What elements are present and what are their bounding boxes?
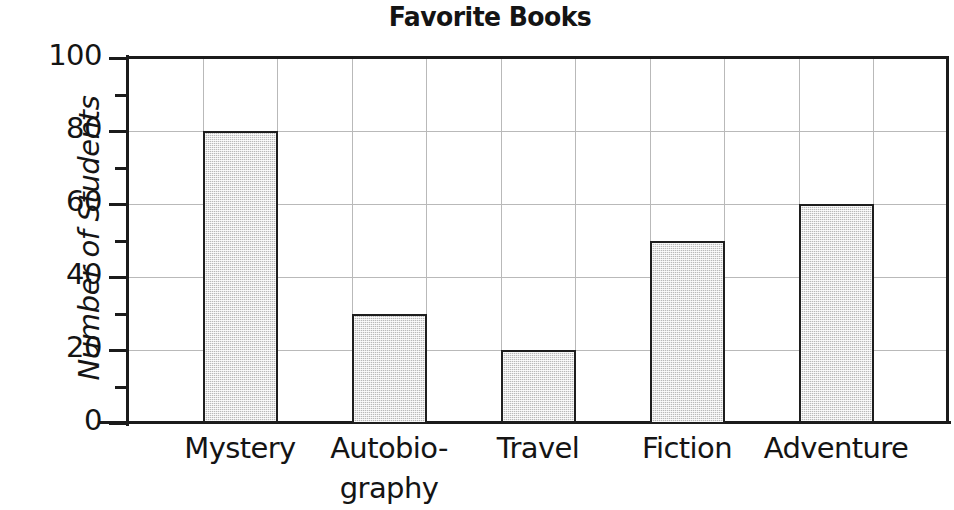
y-tick-minor [115, 167, 128, 170]
y-tick-label: 20 [6, 330, 102, 364]
y-axis-title: Number of Students [72, 48, 106, 428]
x-category-label: Adventure [741, 428, 931, 468]
y-tick-label: 0 [6, 403, 102, 437]
y-tick-major [109, 130, 128, 133]
y-tick-label: 100 [6, 38, 102, 72]
y-tick-label: 80 [6, 111, 102, 145]
y-tick-minor [115, 313, 128, 316]
y-tick-minor [115, 94, 128, 97]
bar [352, 314, 427, 424]
bar [799, 204, 874, 423]
y-tick-major [109, 422, 128, 425]
bar [650, 241, 725, 424]
y-tick-major [109, 276, 128, 279]
y-tick-minor [115, 386, 128, 389]
y-tick-label: 60 [6, 184, 102, 218]
y-tick-major [109, 349, 128, 352]
bar [501, 350, 576, 423]
y-tick-minor [115, 240, 128, 243]
y-tick-label: 40 [6, 257, 102, 291]
chart-title: Favorite Books [34, 1, 945, 32]
plot-border-top [126, 56, 949, 59]
bar-chart-figure: Favorite Books Number of Students 020406… [0, 0, 954, 510]
bar [203, 131, 278, 423]
y-tick-major [109, 203, 128, 206]
plot-border-right [946, 56, 949, 423]
y-tick-major [109, 57, 128, 60]
